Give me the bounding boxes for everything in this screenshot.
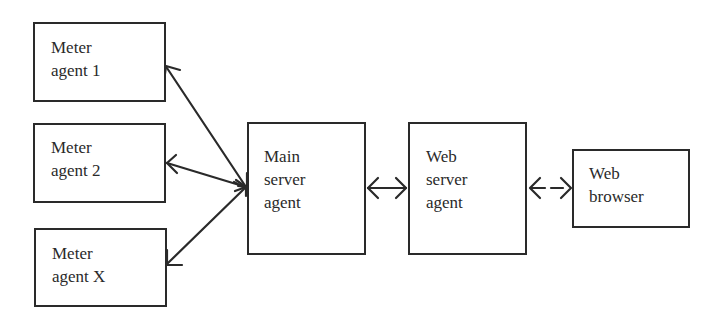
edge-main-meter1 <box>167 68 246 187</box>
node-web-browser-label: Web browser <box>589 162 644 208</box>
node-main-server-agent-label: Main server agent <box>264 145 306 214</box>
node-meter-agent-1-label: Meter agent 1 <box>51 36 101 82</box>
edge-main-meterX <box>167 187 246 264</box>
arrowhead-meter1 <box>164 66 180 81</box>
node-web-server-agent-label: Web server agent <box>426 145 468 214</box>
node-meter-agent-x-label: Meter agent X <box>52 242 105 288</box>
node-meter-agent-2-label: Meter agent 2 <box>51 136 101 182</box>
edge-main-meter2 <box>167 163 246 187</box>
